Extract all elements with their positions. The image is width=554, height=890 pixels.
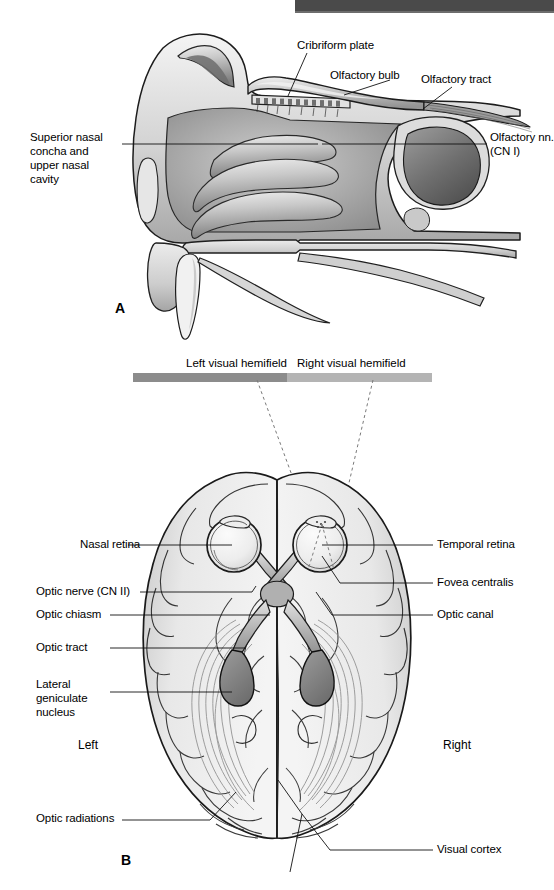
figure-page: Cribriform plate Olfactory bulb Olfactor…: [0, 0, 554, 890]
panel-a-olfactory: Cribriform plate Olfactory bulb Olfactor…: [0, 0, 554, 345]
label-superior-nasal-concha-line1: Superior nasal: [30, 131, 103, 145]
soft-palate: [298, 253, 484, 306]
panel-letter-b: B: [121, 852, 131, 868]
label-nasal-retina: Nasal retina: [80, 538, 140, 552]
label-left-visual-hemifield: Left visual hemifield: [186, 357, 287, 369]
label-olfactory-nn: Olfactory nn.: [490, 131, 554, 145]
panel-letter-a: A: [115, 300, 125, 316]
nasal-vestibule: [137, 158, 158, 223]
label-visual-cortex: Visual cortex: [437, 843, 501, 857]
brain-inferior-view: [110, 473, 433, 872]
label-olfactory-nn-cn1: (CN I): [490, 145, 520, 159]
label-optic-tract: Optic tract: [36, 641, 87, 655]
label-superior-nasal-concha-line2: concha and: [30, 145, 88, 159]
label-olfactory-tract: Olfactory tract: [421, 73, 491, 87]
label-cribriform-plate: Cribriform plate: [297, 39, 374, 53]
label-fovea-centralis: Fovea centralis: [437, 576, 513, 590]
label-lgn-line2: geniculate: [36, 692, 87, 706]
label-side-left: Left: [78, 738, 98, 752]
label-optic-nerve: Optic nerve (CN II): [36, 585, 130, 599]
label-lgn-line3: nucleus: [36, 706, 75, 720]
label-superior-nasal-concha-line3: upper nasal: [30, 159, 89, 173]
label-temporal-retina: Temporal retina: [437, 538, 515, 552]
label-optic-radiations: Optic radiations: [36, 812, 114, 826]
sphenoid-sinus-cavity: [404, 127, 481, 205]
incisor-tooth: [176, 254, 200, 339]
label-right-visual-hemifield: Right visual hemifield: [297, 357, 406, 369]
oral-floor-curve: [198, 258, 330, 323]
label-optic-canal: Optic canal: [437, 608, 493, 622]
label-lgn-line1: Lateral: [36, 678, 70, 692]
hard-palate: [182, 240, 516, 258]
pterygoid-process-bump: [404, 208, 430, 231]
label-optic-chiasm: Optic chiasm: [36, 608, 101, 622]
label-superior-nasal-concha-line4: cavity: [30, 173, 59, 187]
label-side-right: Right: [443, 738, 471, 752]
label-olfactory-bulb: Olfactory bulb: [330, 69, 400, 83]
